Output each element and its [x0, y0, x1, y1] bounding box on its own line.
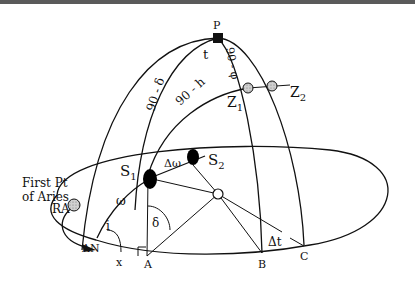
label-inclination: i — [106, 219, 110, 233]
label-zenith2: Z2 — [290, 84, 306, 103]
celestial-sphere-diagram: P t 90 - φ 90 - δ 90 - h Z1 Z2 S1 S2 Δω … — [0, 0, 415, 281]
label-ascending-node: AN — [81, 242, 100, 255]
label-omega: ω — [116, 194, 126, 208]
label-delta-omega: Δω — [164, 157, 181, 170]
zenith1-marker-icon — [243, 83, 253, 93]
right-angle-marker — [138, 247, 146, 256]
label-right-ascension: RA — [52, 202, 70, 216]
line-o-b — [218, 194, 262, 253]
line-dt-c — [290, 238, 304, 246]
label-zenith1: Z1 — [227, 94, 243, 113]
label-point-a: A — [143, 258, 153, 271]
inclination-angle-arc — [107, 230, 121, 252]
line-o-s1 — [148, 178, 218, 194]
label-point-b: B — [258, 258, 266, 271]
pole-marker-icon — [213, 33, 223, 43]
label-codeclination: 90 - δ — [144, 76, 168, 113]
line-s1-a — [147, 178, 148, 256]
outer-meridian-left — [82, 38, 218, 250]
label-colatitude: 90 - φ — [223, 46, 241, 80]
label-delta-t: Δt — [268, 235, 282, 249]
label-pole: P — [213, 19, 221, 32]
line-o-dt — [218, 194, 282, 232]
label-star2: S2 — [208, 151, 225, 171]
label-star1: S1 — [120, 162, 137, 182]
first-point-of-aries-marker-icon — [68, 199, 80, 211]
zenith2-marker-icon — [267, 81, 277, 91]
orbit-arc — [97, 180, 148, 238]
label-zenith-distance: 90 - h — [173, 74, 208, 108]
label-point-c: C — [300, 250, 308, 263]
label-declination: δ — [152, 216, 159, 230]
star-s1-icon — [143, 169, 157, 189]
label-hour-angle: t — [203, 47, 209, 62]
label-first-point-line1: First Pt — [22, 176, 68, 190]
label-x: x — [116, 256, 123, 269]
center-o-icon — [213, 189, 223, 199]
star-s2-icon — [187, 149, 199, 165]
